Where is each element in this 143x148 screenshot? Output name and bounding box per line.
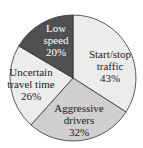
slice-label-low-speed: Low speed 20% [43,22,69,58]
svg-text:Aggressive: Aggressive [54,102,104,114]
pie-chart: Start/stop traffic 43% Aggressive driver… [0,0,143,148]
svg-text:travel time: travel time [7,78,54,90]
svg-text:traffic: traffic [97,60,124,72]
svg-text:43%: 43% [100,72,120,84]
svg-text:Uncertain: Uncertain [9,66,53,78]
svg-text:speed: speed [43,34,69,46]
svg-text:32%: 32% [69,126,89,138]
svg-text:Start/stop: Start/stop [89,48,132,60]
svg-text:Low: Low [46,22,66,34]
svg-text:drivers: drivers [64,114,95,126]
svg-text:20%: 20% [46,46,66,58]
svg-text:26%: 26% [21,90,41,102]
